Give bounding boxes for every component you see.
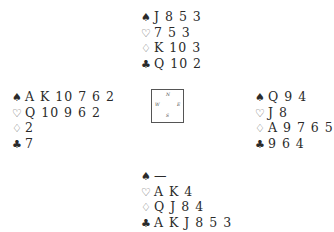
east-spades: ♠Q 9 4 bbox=[255, 89, 334, 105]
south-diamonds: ♢Q J 8 4 bbox=[141, 199, 232, 215]
east-diamonds-cards: A 9 7 6 5 bbox=[268, 120, 334, 135]
west-clubs: ♣7 bbox=[12, 136, 115, 152]
north-clubs: ♣Q 10 2 bbox=[141, 56, 202, 72]
compass-west-label: W bbox=[155, 102, 160, 107]
heart-icon: ♡ bbox=[141, 26, 154, 42]
heart-icon: ♡ bbox=[255, 106, 268, 122]
west-diamonds: ♢2 bbox=[12, 120, 115, 136]
north-spades-cards: J 8 5 3 bbox=[154, 9, 202, 24]
east-clubs: ♣9 6 4 bbox=[255, 136, 334, 152]
north-diamonds-cards: K 10 3 bbox=[154, 40, 201, 55]
east-spades-cards: Q 9 4 bbox=[268, 89, 307, 104]
north-clubs-cards: Q 10 2 bbox=[154, 56, 202, 71]
south-clubs-cards: A K J 8 5 3 bbox=[154, 215, 232, 230]
west-hearts: ♡Q 10 9 6 2 bbox=[12, 105, 115, 121]
spade-icon: ♠ bbox=[12, 90, 25, 106]
club-icon: ♣ bbox=[141, 57, 154, 73]
west-hand: ♠A K 10 7 6 2 ♡Q 10 9 6 2 ♢2 ♣7 bbox=[12, 89, 115, 151]
spade-icon: ♠ bbox=[141, 169, 154, 185]
west-spades: ♠A K 10 7 6 2 bbox=[12, 89, 115, 105]
north-spades: ♠J 8 5 3 bbox=[141, 9, 202, 25]
south-hearts: ♡A K 4 bbox=[141, 184, 232, 200]
spade-icon: ♠ bbox=[141, 10, 154, 26]
south-hearts-cards: A K 4 bbox=[154, 184, 193, 199]
club-icon: ♣ bbox=[141, 216, 154, 232]
compass-north-label: N bbox=[166, 92, 170, 97]
east-clubs-cards: 9 6 4 bbox=[268, 136, 305, 151]
north-hearts: ♡7 5 3 bbox=[141, 25, 202, 41]
east-diamonds: ♢A 9 7 6 5 bbox=[255, 120, 334, 136]
diamond-icon: ♢ bbox=[12, 121, 25, 137]
north-hand: ♠J 8 5 3 ♡7 5 3 ♢K 10 3 ♣Q 10 2 bbox=[141, 9, 202, 71]
compass-south-label: S bbox=[166, 113, 169, 118]
south-spades: ♠— bbox=[141, 168, 232, 184]
south-clubs: ♣A K J 8 5 3 bbox=[141, 215, 232, 231]
east-hearts-cards: J 8 bbox=[268, 105, 288, 120]
compass-box: N W E S bbox=[151, 89, 184, 123]
west-diamonds-cards: 2 bbox=[25, 120, 34, 135]
south-spades-cards: — bbox=[154, 168, 168, 183]
compass-east-label: E bbox=[177, 102, 180, 107]
east-hearts: ♡J 8 bbox=[255, 105, 334, 121]
club-icon: ♣ bbox=[12, 137, 25, 153]
north-hearts-cards: 7 5 3 bbox=[154, 25, 191, 40]
south-hand: ♠— ♡A K 4 ♢Q J 8 4 ♣A K J 8 5 3 bbox=[141, 168, 232, 230]
heart-icon: ♡ bbox=[12, 106, 25, 122]
west-hearts-cards: Q 10 9 6 2 bbox=[25, 105, 101, 120]
heart-icon: ♡ bbox=[141, 185, 154, 201]
north-diamonds: ♢K 10 3 bbox=[141, 40, 202, 56]
club-icon: ♣ bbox=[255, 137, 268, 153]
spade-icon: ♠ bbox=[255, 90, 268, 106]
south-diamonds-cards: Q J 8 4 bbox=[154, 199, 204, 214]
diamond-icon: ♢ bbox=[255, 121, 268, 137]
west-clubs-cards: 7 bbox=[25, 136, 34, 151]
east-hand: ♠Q 9 4 ♡J 8 ♢A 9 7 6 5 ♣9 6 4 bbox=[255, 89, 334, 151]
diamond-icon: ♢ bbox=[141, 41, 154, 57]
west-spades-cards: A K 10 7 6 2 bbox=[25, 89, 115, 104]
diamond-icon: ♢ bbox=[141, 200, 154, 216]
